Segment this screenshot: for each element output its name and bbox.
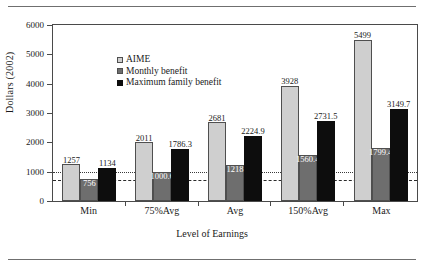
y-axis-tick-label: 6000 [26,21,44,30]
bar[interactable]: 3928 [281,86,299,201]
legend-item-aime: AIME [117,54,222,66]
y-axis-tick-label: 4000 [26,79,44,88]
x-axis-tick-label: Max [345,206,418,216]
y-axis-tick-label: 1000 [26,167,44,176]
legend-swatch-icon [117,57,123,63]
y-axis-tick [47,201,53,202]
legend-item-maximum-family-benefit: Maximum family benefit [117,77,222,89]
legend-label: Maximum family benefit [126,77,222,89]
legend-label: AIME [126,54,150,66]
y-axis-title: Dollars (2002) [4,52,15,113]
legend: AIME Monthly benefit Maximum family bene… [117,54,222,89]
x-axis-tick-label: Avg [198,206,271,216]
x-axis-tick-label: 150%Avg [272,206,345,216]
y-axis-tick-label: 0 [40,197,45,206]
bar[interactable]: 3149.7 [390,109,408,201]
bar[interactable]: 1560.4 [299,155,317,201]
bar[interactable]: 1134 [98,168,116,201]
x-axis-tick-label: 75%Avg [125,206,198,216]
bar-value-label: 2011 [136,134,153,143]
bar-value-label: 2681 [208,114,225,123]
legend-label: Monthly benefit [126,66,187,78]
bar[interactable]: 1000.6 [153,172,171,201]
bar-value-label: 1257 [63,156,80,165]
bar[interactable]: 2731.5 [317,121,335,201]
bar[interactable]: 756 [80,179,98,201]
bar-value-label: 5499 [354,31,371,40]
bar-value-label: 3149.7 [387,100,410,109]
bar[interactable]: 5499 [354,40,372,201]
bar[interactable]: 1799.4 [372,148,390,201]
bar-value-label: 1786.3 [169,140,192,149]
y-axis-tick-label: 5000 [26,50,44,59]
bar-group: 54991799.43149.7 [344,25,417,201]
figure: Dollars (2002) 0100020003000400050006000… [0,0,424,268]
bar-value-label: 756 [83,179,96,188]
bar-group: 12577561134 [53,25,126,201]
bar-value-label: 3928 [281,77,298,86]
bar-value-label: 1218 [226,165,243,174]
x-axis-tick-labels: Min75%AvgAvg150%AvgMax [52,206,418,216]
bar-value-label: 2731.5 [314,112,337,121]
legend-item-monthly-benefit: Monthly benefit [117,66,222,78]
bar[interactable]: 1786.3 [171,149,189,201]
plot-area: 0100020003000400050006000 12577561134201… [52,24,418,202]
figure-bottom-rule [8,259,416,260]
bar-group: 20111000.61786.3 [126,25,199,201]
bar-value-label: 1134 [99,159,116,168]
bar[interactable]: 2224.9 [244,136,262,201]
figure-top-rule [8,6,416,7]
bar[interactable]: 1218 [226,165,244,201]
legend-swatch-icon [117,68,123,74]
bar[interactable]: 1257 [62,164,80,201]
bar-group: 39281560.42731.5 [271,25,344,201]
x-axis-tick-label: Min [52,206,125,216]
bar-groups: 1257756113420111000.61786.3268112182224.… [53,25,417,201]
bar[interactable]: 2681 [208,122,226,201]
x-axis-title: Level of Earnings [0,228,424,239]
bar-value-label: 2224.9 [241,127,264,136]
y-axis-tick-label: 3000 [26,109,44,118]
legend-swatch-icon [117,80,123,86]
y-axis-tick-label: 2000 [26,138,44,147]
bar-group: 268112182224.9 [199,25,272,201]
